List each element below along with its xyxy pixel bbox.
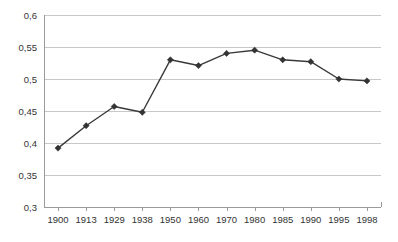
y-axis-tick-label: 0,45 (19, 106, 38, 117)
data-point-marker (280, 57, 286, 63)
data-point-marker (139, 109, 145, 115)
y-axis-tick-label: 0,55 (19, 42, 38, 53)
y-axis-tick-label: 0,4 (24, 138, 37, 149)
line-chart: 0,30,350,40,450,50,550,6 190019131929193… (0, 0, 398, 242)
data-point-marker (223, 50, 229, 56)
x-axis-tick-label: 1985 (272, 214, 293, 225)
x-axis-tick-label: 1929 (104, 214, 125, 225)
data-series-line (58, 50, 367, 148)
data-point-marker (167, 57, 173, 63)
data-point-marker (195, 62, 201, 68)
chart-container: 0,30,350,40,450,50,550,6 190019131929193… (0, 0, 398, 242)
data-point-marker (336, 76, 342, 82)
x-axis-tick-label: 1970 (216, 214, 237, 225)
x-axis-tick-label: 1995 (328, 214, 349, 225)
y-axis-tick-label: 0,35 (19, 170, 38, 181)
gridlines (44, 16, 381, 176)
x-axis-tick-label: 1998 (356, 214, 377, 225)
data-point-marker (364, 78, 370, 84)
data-point-markers (55, 47, 370, 151)
x-axis-tick-label: 1938 (132, 214, 153, 225)
x-axis-tick-label: 1900 (47, 214, 68, 225)
y-axis-tick-label: 0,5 (24, 74, 37, 85)
x-axis-tick-label: 1960 (188, 214, 209, 225)
y-axis-tick-labels: 0,30,350,40,450,50,550,6 (19, 10, 38, 213)
x-axis-tick-label: 1950 (160, 214, 181, 225)
data-point-marker (308, 59, 314, 65)
x-axis-tick-label: 1913 (76, 214, 97, 225)
y-axis-tick-label: 0,3 (24, 202, 37, 213)
series-polyline (58, 50, 367, 148)
x-axis-tick-labels: 1900191319291938195019601970198019851990… (47, 214, 377, 225)
y-axis-tick-label: 0,6 (24, 10, 37, 21)
x-axis-tick-label: 1980 (244, 214, 265, 225)
x-axis-tick-label: 1990 (300, 214, 321, 225)
data-point-marker (252, 47, 258, 53)
